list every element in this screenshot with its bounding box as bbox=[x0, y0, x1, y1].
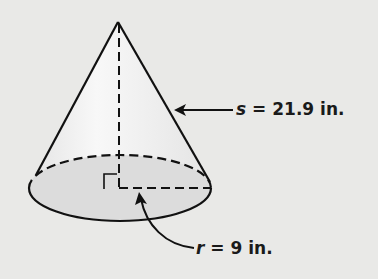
radius-value: 9 in. bbox=[230, 238, 272, 258]
slant-label: s = 21.9 in. bbox=[236, 99, 344, 119]
cone-diagram: s = 21.9 in. r = 9 in. bbox=[0, 0, 378, 279]
radius-label: r = 9 in. bbox=[196, 238, 273, 258]
radius-equals: = bbox=[204, 238, 230, 258]
slant-value: 21.9 in. bbox=[272, 99, 344, 119]
slant-variable: s bbox=[236, 99, 246, 119]
slant-equals: = bbox=[246, 99, 272, 119]
